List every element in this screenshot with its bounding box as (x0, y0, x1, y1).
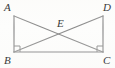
vertex-label-C: C (103, 55, 110, 66)
vertex-label-A: A (4, 2, 11, 13)
figure-canvas (0, 0, 115, 68)
vertex-label-E: E (57, 18, 64, 29)
vertex-label-B: B (4, 55, 11, 66)
geometry-figure: A D E B C (0, 0, 115, 68)
vertex-label-D: D (103, 2, 111, 13)
